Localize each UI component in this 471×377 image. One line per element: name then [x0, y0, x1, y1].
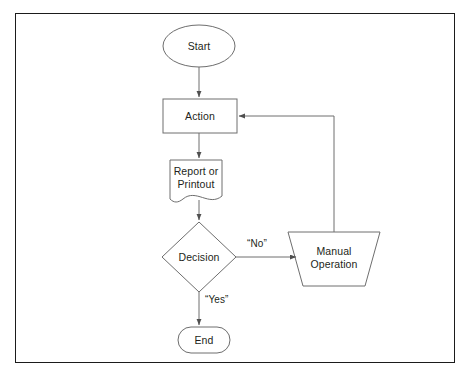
edge-label-yes: “Yes”: [205, 294, 228, 306]
node-action-label: Action: [170, 110, 230, 123]
edge-manual-to-action: [239, 116, 334, 232]
node-report-label: Report or Printout: [166, 165, 226, 190]
node-end-label: End: [174, 334, 234, 347]
node-decision-label: Decision: [169, 251, 229, 264]
flowchart-canvas: Start Action Report or Printout Decision…: [0, 0, 471, 377]
node-manual-label: Manual Operation: [304, 245, 364, 270]
edge-label-no: “No”: [247, 238, 267, 250]
node-start-label: Start: [169, 40, 229, 53]
flowchart-graphics: [0, 0, 471, 377]
